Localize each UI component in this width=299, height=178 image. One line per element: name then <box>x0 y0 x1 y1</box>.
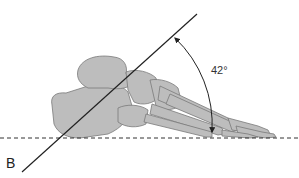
point-label-b: B <box>6 155 15 171</box>
angle-label: 42° <box>211 64 228 76</box>
foot-skeleton <box>52 56 276 138</box>
foot-diagram <box>0 0 299 178</box>
diagram-canvas: 42° B <box>0 0 299 178</box>
